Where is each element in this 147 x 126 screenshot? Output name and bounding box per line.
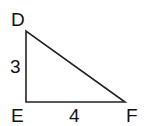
vertex-label-e: E (11, 105, 24, 126)
triangle-def (26, 31, 125, 102)
vertex-label-d: D (11, 9, 25, 30)
vertex-label-f: F (126, 105, 138, 126)
side-label-ef: 4 (69, 105, 80, 126)
triangle-diagram: D E F 3 4 (0, 0, 147, 126)
side-label-de: 3 (10, 56, 21, 77)
